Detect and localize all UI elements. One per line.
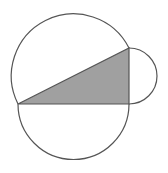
shaded-triangle	[18, 48, 129, 104]
leg-semicircle	[129, 48, 157, 104]
base-semicircle	[18, 104, 129, 160]
geometry-diagram	[0, 0, 168, 173]
